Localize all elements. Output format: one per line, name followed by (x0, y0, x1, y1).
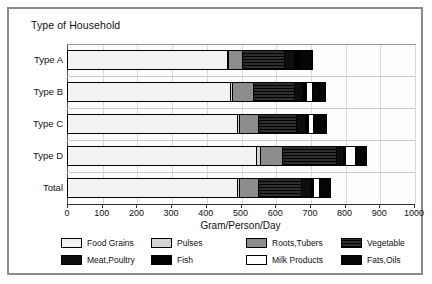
bar-segment-vegetable (282, 146, 336, 166)
legend-label-food_grains: Food Grains (87, 237, 134, 250)
legend-label-fish: Fish (177, 254, 193, 267)
chart-frame: Type of Household Type AType BType CType… (7, 7, 423, 275)
legend-label-fats_oils: Fats,Oils (367, 254, 401, 267)
bar-segment-meat_poultry (296, 114, 305, 134)
bar-segment-milk_products (345, 146, 355, 166)
bar-segment-roots_tubers (239, 178, 258, 198)
bar-segment-fats_oils (319, 178, 331, 198)
bar-type-a (67, 50, 414, 70)
bar-segment-fats_oils (299, 50, 313, 70)
legend-label-roots_tubers: Roots,Tubers (272, 237, 323, 250)
legend-label-vegetable: Vegetable (367, 237, 405, 250)
category-label-type-c: Type C (15, 118, 63, 129)
legend-label-meat_poultry: Meat,Poultry (87, 254, 135, 267)
row-separator (67, 172, 415, 173)
bar-segment-food_grains (67, 178, 237, 198)
legend-swatch-fats_oils (341, 255, 362, 265)
category-label-type-b: Type B (15, 86, 63, 97)
legend-swatch-fish (151, 255, 172, 265)
bar-segment-meat_poultry (301, 178, 310, 198)
bar-segment-food_grains (67, 82, 230, 102)
x-axis-label: Gram/Person/Day (67, 220, 414, 231)
bar-segment-roots_tubers (232, 82, 253, 102)
category-label-type-a: Type A (15, 54, 63, 65)
bar-segment-meat_poultry (294, 82, 303, 102)
bar-total (67, 178, 414, 198)
chart-title: Type of Household (31, 19, 120, 31)
legend: Food GrainsPulsesRoots,TubersVegetable M… (21, 237, 411, 275)
legend-label-pulses: Pulses (177, 237, 203, 250)
bar-segment-vegetable (253, 82, 295, 102)
category-label-total: Total (15, 182, 63, 193)
bar-segment-vegetable (242, 50, 284, 70)
bar-segment-roots_tubers (260, 146, 283, 166)
bar-segment-food_grains (67, 146, 256, 166)
legend-swatch-roots_tubers (246, 238, 267, 248)
legend-row: Food GrainsPulsesRoots,TubersVegetable (21, 237, 411, 253)
bar-segment-food_grains (67, 114, 237, 134)
row-separator (67, 76, 415, 77)
row-separator (67, 140, 415, 141)
legend-swatch-meat_poultry (61, 255, 82, 265)
bar-type-c (67, 114, 414, 134)
gridline (415, 45, 416, 205)
bar-segment-meat_poultry (284, 50, 294, 70)
bar-type-d (67, 146, 414, 166)
legend-swatch-food_grains (61, 238, 82, 248)
bar-segment-fats_oils (355, 146, 367, 166)
legend-swatch-pulses (151, 238, 172, 248)
legend-swatch-milk_products (246, 255, 267, 265)
bar-segment-roots_tubers (228, 50, 242, 70)
legend-swatch-vegetable (341, 238, 362, 248)
category-label-type-d: Type D (15, 150, 63, 161)
bar-segment-vegetable (258, 114, 296, 134)
bar-segment-fats_oils (313, 114, 327, 134)
bar-type-b (67, 82, 414, 102)
legend-label-milk_products: Milk Products (272, 254, 323, 267)
bar-segment-food_grains (67, 50, 227, 70)
row-separator (67, 108, 415, 109)
legend-row: Meat,PoultryFishMilk ProductsFats,Oils (21, 254, 411, 270)
bar-segment-vegetable (258, 178, 301, 198)
bar-segment-fats_oils (312, 82, 326, 102)
bar-segment-meat_poultry (336, 146, 343, 166)
x-tick-label: 1000 (394, 208, 432, 218)
bar-segment-roots_tubers (239, 114, 258, 134)
